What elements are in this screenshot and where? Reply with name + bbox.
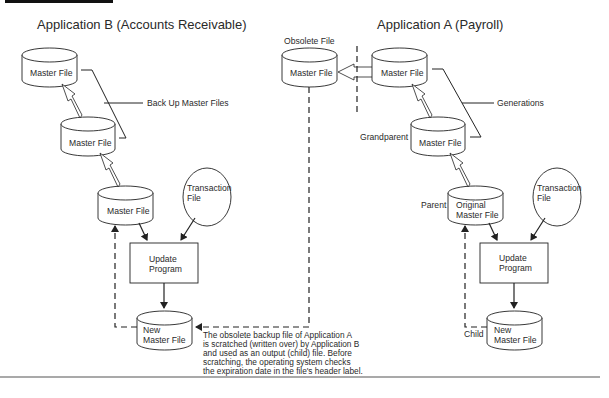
app-b-master-file-2: Master File: [61, 117, 115, 156]
app-b-update-program: Update Program: [130, 243, 198, 283]
app-b-master-file-1: Master File: [22, 48, 77, 87]
backup-master-files-label: Back Up Master Files: [147, 98, 229, 108]
svg-text:New: New: [494, 325, 512, 335]
app-a-transaction-file: Transaction File: [533, 168, 582, 226]
app-a-master-file: Master File: [372, 48, 427, 87]
svg-text:Master File: Master File: [290, 68, 333, 78]
app-b-title: Application B (Accounts Receivable): [37, 17, 247, 32]
svg-text:File: File: [187, 193, 201, 203]
svg-text:Master File: Master File: [69, 138, 112, 148]
svg-text:Master File: Master File: [419, 138, 462, 148]
svg-text:Original: Original: [456, 200, 486, 210]
app-a-grandparent-file: Master File: [411, 117, 465, 156]
svg-text:Transaction: Transaction: [187, 183, 232, 193]
child-label: Child: [464, 329, 484, 339]
obsolete-master-file: Master File: [282, 48, 337, 87]
svg-text:Program: Program: [499, 263, 532, 273]
svg-text:File: File: [537, 193, 551, 203]
app-b-new-master-file: New Master File: [137, 311, 192, 350]
svg-text:New: New: [143, 325, 161, 335]
svg-text:Update: Update: [149, 254, 177, 264]
scratch-note: The obsolete backup file of Application …: [203, 330, 363, 376]
parent-label: Parent: [421, 200, 447, 210]
diagram-canvas: Application B (Accounts Receivable) Appl…: [0, 0, 609, 398]
svg-text:Master File: Master File: [456, 210, 499, 220]
generations-label: Generations: [497, 98, 544, 108]
svg-text:Update: Update: [499, 253, 527, 263]
svg-text:Master File: Master File: [30, 68, 73, 78]
hollow-arrow-left-icon: [338, 64, 373, 80]
svg-text:Master File: Master File: [143, 335, 186, 345]
svg-text:Program: Program: [149, 264, 182, 274]
app-b-master-file-3: Master File: [98, 186, 153, 225]
header-bar: [5, 0, 113, 3]
app-a-update-program: Update Program: [480, 243, 548, 283]
svg-text:Master File: Master File: [381, 68, 424, 78]
obsolete-file-label: Obsolete File: [284, 36, 335, 46]
svg-text:Transaction: Transaction: [537, 183, 582, 193]
grandparent-label: Grandparent: [360, 132, 409, 142]
app-a-parent-file: Original Master File: [448, 186, 503, 225]
app-a-new-master-file: New Master File: [487, 311, 542, 350]
svg-text:the expiration date in the fil: the expiration date in the file's header…: [203, 366, 363, 376]
app-b-transaction-file: Transaction File: [183, 168, 232, 226]
svg-text:Master File: Master File: [107, 206, 150, 216]
svg-text:Master File: Master File: [494, 335, 537, 345]
app-a-title: Application A (Payroll): [377, 17, 503, 32]
